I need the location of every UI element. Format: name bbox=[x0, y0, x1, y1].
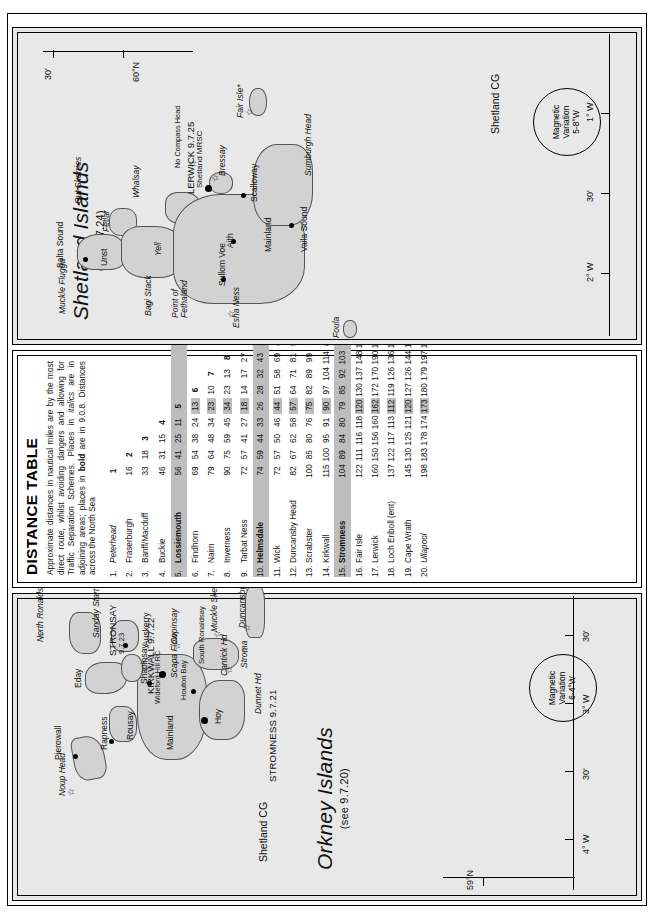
distance-cell: 23 bbox=[207, 398, 216, 414]
place-name: Inverness bbox=[223, 479, 232, 563]
distance-cell: 112 bbox=[387, 398, 396, 414]
distance-cell: 34 bbox=[223, 398, 232, 414]
distance-cell: 18 bbox=[240, 398, 249, 414]
place-name: Findhorn bbox=[191, 479, 200, 563]
distance-cell: 119 bbox=[387, 382, 396, 398]
distance-cell: 58 bbox=[273, 366, 282, 382]
shetland-label-bressay: Bressay bbox=[217, 145, 227, 176]
distance-cell: 48 bbox=[207, 430, 216, 446]
orkney-label-stroma: Stroma bbox=[239, 641, 249, 668]
distance-cell: 59 bbox=[223, 430, 232, 446]
place-name: Fraserburgh bbox=[125, 479, 134, 563]
distance-cell: 130 bbox=[355, 382, 364, 398]
distance-cell: 16 bbox=[125, 463, 134, 479]
distance-cell: 104 bbox=[322, 366, 331, 382]
shetland-tick-1 bbox=[601, 273, 610, 274]
distance-cell: 10 bbox=[207, 382, 216, 398]
auskerry-light-icon: ☆ bbox=[145, 634, 154, 642]
fair-isle-light-icon: ☆ bbox=[245, 108, 254, 116]
distance-cell: 114 bbox=[322, 350, 331, 366]
distance-cell: 41 bbox=[240, 430, 249, 446]
distance-cell: 90 bbox=[322, 398, 331, 414]
row-index: 4. bbox=[158, 563, 167, 577]
orkney-label-pierowall: Pierowall bbox=[53, 726, 63, 761]
distance-cell: 120 bbox=[404, 398, 413, 414]
distance-cell: 41 bbox=[174, 447, 183, 463]
distance-cell: 130 bbox=[404, 447, 413, 463]
distance-cell: 24 bbox=[191, 414, 200, 430]
distance-cell: 79 bbox=[207, 463, 216, 479]
shetland-label-bagi-stack: Bagi Stack bbox=[143, 275, 153, 316]
orkney-dot-stromness bbox=[201, 717, 208, 724]
distance-cell: 190 bbox=[371, 350, 380, 366]
distance-cell: 46 bbox=[273, 414, 282, 430]
distance-cell: 79 bbox=[338, 398, 347, 414]
distance-cell: 122 bbox=[355, 463, 364, 479]
distance-cell: 127 bbox=[404, 382, 413, 398]
distance-cell: 180 bbox=[420, 382, 429, 398]
orkney-dot-houton bbox=[191, 689, 196, 694]
shetland-dot-aith bbox=[231, 239, 236, 244]
cantick-light-icon: ☆ bbox=[225, 666, 234, 674]
distance-cells: 7964483423107 bbox=[207, 366, 216, 479]
orkney-tick-lat bbox=[483, 877, 484, 886]
distance-cell: 38 bbox=[191, 430, 200, 446]
shetland-label-whalsay: Whalsay bbox=[131, 165, 141, 198]
shetland-label-fetlar: Fetlar bbox=[101, 210, 111, 232]
orkney-axis-vert bbox=[443, 877, 575, 878]
shetland-label-yell: Yell bbox=[153, 242, 163, 256]
row-index: 10. bbox=[256, 563, 265, 577]
distance-cell: 26 bbox=[256, 398, 265, 414]
orkney-label-eday: Eday bbox=[73, 669, 83, 688]
distance-cells: 4631154 bbox=[158, 414, 167, 479]
distance-cell: 118 bbox=[355, 414, 364, 430]
distance-cell: 174 bbox=[420, 414, 429, 430]
distance-cell: 99 bbox=[305, 350, 314, 366]
column-header: 1 bbox=[109, 463, 118, 479]
orkney-label-dunnet-hd: Dunnet Hd bbox=[253, 673, 263, 714]
shetland-coord-30a: 30' bbox=[43, 68, 53, 80]
distance-cell: 179 bbox=[420, 366, 429, 382]
distance-cell: 44 bbox=[273, 398, 282, 414]
distance-cells: 72574127181417279 bbox=[240, 333, 249, 479]
distance-cell: 90 bbox=[223, 463, 232, 479]
distance-cell: 57 bbox=[273, 447, 282, 463]
column-header: 2 bbox=[125, 447, 134, 463]
orkney-coord-3w: 3° W bbox=[581, 694, 591, 714]
distance-cell: 113 bbox=[387, 414, 396, 430]
out-skerries-light-icon: ☆ bbox=[75, 194, 84, 202]
orkney-map-subtitle: (see 9.7.20) bbox=[338, 727, 350, 870]
orkney-coord-4w: 4° W bbox=[581, 834, 591, 854]
place-name: Wick bbox=[273, 479, 282, 563]
distance-cell: 160 bbox=[371, 463, 380, 479]
distance-cell: 103 bbox=[338, 350, 347, 366]
distance-cells: 1 bbox=[109, 463, 118, 479]
row-index: 8. bbox=[223, 563, 232, 577]
distance-cells: 33183 bbox=[141, 430, 150, 479]
orkney-label-hoy: Hoy bbox=[213, 709, 223, 724]
distance-cell: 15 bbox=[158, 430, 167, 446]
place-name: Cape Wrath bbox=[404, 479, 413, 563]
distance-cell: 44 bbox=[256, 430, 265, 446]
distance-cell: 97 bbox=[322, 382, 331, 398]
distance-cell: 178 bbox=[420, 430, 429, 446]
distance-cell: 58 bbox=[289, 414, 298, 430]
place-name: Loch Eriboll (ent) bbox=[387, 479, 396, 563]
distance-cell: 64 bbox=[207, 447, 216, 463]
distance-cells: 162 bbox=[125, 447, 134, 479]
shetland-label-unst: Unst bbox=[99, 249, 109, 266]
shetland-axis-vert bbox=[43, 51, 193, 52]
distance-cell: 122 bbox=[387, 447, 396, 463]
copinsay-light-icon: ☆ bbox=[173, 642, 182, 650]
place-name: Tarbat Ness bbox=[240, 479, 249, 563]
shetland-label-scalloway: Scalloway bbox=[249, 164, 259, 202]
distance-cell: 25 bbox=[174, 430, 183, 446]
distance-cell: 50 bbox=[273, 430, 282, 446]
shetland-axis-line bbox=[609, 34, 610, 336]
distance-cell: 13 bbox=[223, 366, 232, 382]
row-index: 11. bbox=[273, 563, 282, 577]
row-index: 1. bbox=[109, 563, 118, 577]
muckle-skerry-light-icon: ☆ bbox=[213, 630, 222, 638]
place-name: Ullapool bbox=[420, 479, 429, 563]
distance-cell: 170 bbox=[371, 366, 380, 382]
